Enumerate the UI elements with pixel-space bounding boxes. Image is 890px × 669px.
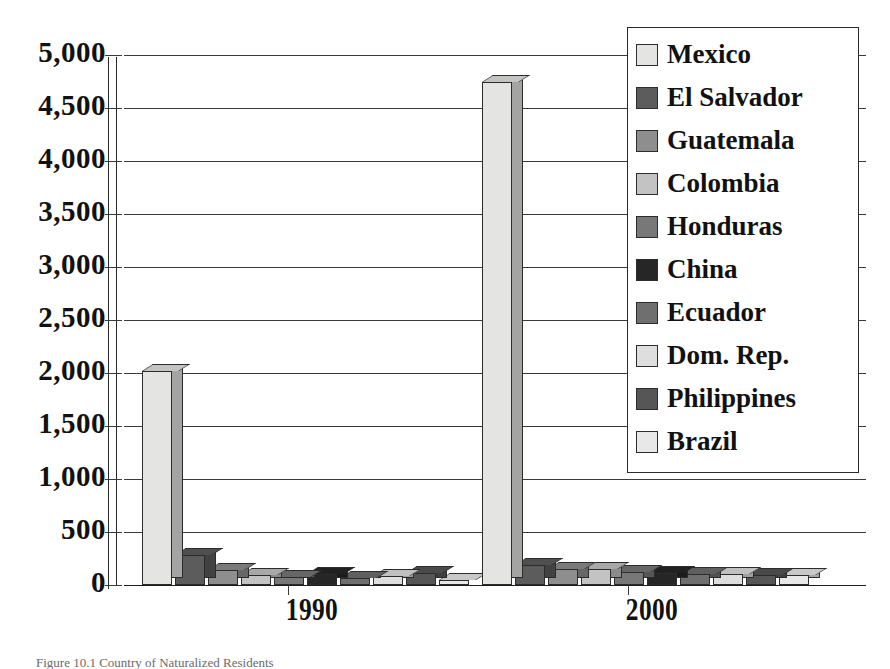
y-axis-tick-label: 5,000 [0, 38, 106, 67]
figure-caption: Figure 10.1 Country of Naturalized Resid… [36, 655, 856, 669]
bar-front-face [340, 578, 370, 585]
legend-item-label: Honduras [667, 213, 783, 240]
bar-front-face [439, 580, 469, 585]
legend-item-label: Mexico [667, 41, 751, 68]
legend-item-colombia[interactable]: Colombia [636, 162, 858, 205]
bar-brazil-1990 [439, 580, 469, 585]
bar-side-face [172, 364, 183, 578]
legend-item-china[interactable]: China [636, 248, 858, 291]
legend-item-guatemala[interactable]: Guatemala [636, 119, 858, 162]
legend-swatch-icon [636, 173, 658, 195]
y-axis-tick-label: 4,500 [0, 91, 106, 120]
legend-item-ecuador[interactable]: Ecuador [636, 291, 858, 334]
y-axis-tick-label: 0 [0, 568, 106, 597]
plot-wall-left-edge [116, 57, 117, 585]
legend-swatch-icon [636, 216, 658, 238]
y-axis-tick-label: 1,000 [0, 462, 106, 491]
legend-swatch-icon [636, 130, 658, 152]
legend-item-philippines[interactable]: Philippines [636, 377, 858, 420]
legend-swatch-icon [636, 302, 658, 324]
x-axis-tick-mark [288, 584, 289, 595]
bar-front-face [482, 82, 512, 586]
legend-item-label: El Salvador [667, 84, 803, 111]
bar-mexico-2000 [482, 82, 512, 586]
x-axis-tick-mark [628, 584, 629, 595]
y-axis-tick-label: 1,500 [0, 409, 106, 438]
figure-root: 05001,0001,5002,0002,5003,0003,5004,0004… [0, 0, 890, 669]
legend-item-dom-rep[interactable]: Dom. Rep. [636, 334, 858, 377]
bar-mexico-1990 [142, 371, 172, 585]
legend-item-label: Brazil [667, 428, 737, 455]
legend-item-label: Dom. Rep. [667, 342, 789, 369]
y-axis-tick-label: 500 [0, 515, 106, 544]
legend-item-label: Guatemala [667, 127, 795, 154]
y-axis-tick-label: 3,500 [0, 197, 106, 226]
legend-item-honduras[interactable]: Honduras [636, 205, 858, 248]
legend-item-label: Philippines [667, 385, 796, 412]
y-axis-spine [108, 57, 109, 589]
y-axis-tick-label: 2,000 [0, 356, 106, 385]
bar-honduras-1990 [274, 577, 304, 585]
bar-front-face [274, 577, 304, 585]
legend-item-brazil[interactable]: Brazil [636, 420, 858, 463]
bar-ecuador-1990 [340, 578, 370, 585]
y-axis-tick-labels: 05001,0001,5002,0002,5003,0003,5004,0004… [0, 0, 106, 669]
x-axis-tick-label-1990: 1990 [275, 592, 349, 628]
legend-swatch-icon [636, 87, 658, 109]
bar-side-face [512, 75, 523, 579]
y-axis-tick-label: 4,000 [0, 144, 106, 173]
legend-item-el-salvador[interactable]: El Salvador [636, 76, 858, 119]
y-axis-tick-label: 2,500 [0, 303, 106, 332]
legend-item-mexico[interactable]: Mexico [636, 33, 858, 76]
legend-item-label: Ecuador [667, 299, 766, 326]
legend-swatch-icon [636, 44, 658, 66]
x-axis-tick-label-2000: 2000 [615, 592, 689, 628]
gridline [124, 585, 866, 586]
legend-swatch-icon [636, 431, 658, 453]
legend-item-label: Colombia [667, 170, 780, 197]
x-axis-tick-labels: 19902000 [124, 592, 866, 636]
y-axis-tick-label: 3,000 [0, 250, 106, 279]
legend-item-label: China [667, 256, 738, 283]
legend-swatch-icon [636, 259, 658, 281]
bar-front-face [142, 371, 172, 585]
legend-swatch-icon [636, 388, 658, 410]
chart-legend: MexicoEl SalvadorGuatemalaColombiaHondur… [627, 27, 859, 473]
legend-swatch-icon [636, 345, 658, 367]
